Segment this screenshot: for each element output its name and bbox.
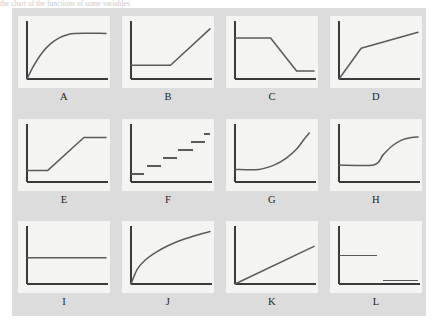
panel-label-a: A (60, 91, 68, 103)
panel-label-l: L (373, 296, 380, 308)
plot-area-c (226, 16, 318, 88)
panel-grid: ABCDEFGHIJKL (12, 8, 426, 316)
plot-area-l (330, 221, 422, 293)
panel-l: L (324, 213, 428, 316)
panel-label-c: C (268, 91, 275, 103)
panel-i: I (12, 213, 116, 316)
data-curve (235, 247, 314, 285)
plot-area-j (122, 221, 214, 293)
data-curve (131, 29, 210, 65)
panel-h: H (324, 111, 428, 214)
panel-label-e: E (61, 194, 68, 206)
panel-e: E (12, 111, 116, 214)
caption-text: the chart of the functions of some varia… (0, 0, 434, 7)
plot-area-e (18, 119, 110, 191)
figure-container: ABCDEFGHIJKL (12, 8, 426, 316)
plot-area-f (122, 119, 214, 191)
panel-c: C (220, 8, 324, 111)
panel-label-i: I (62, 296, 66, 308)
plot-area-g (226, 119, 318, 191)
panel-g: G (220, 111, 324, 214)
data-curve (235, 133, 309, 170)
panel-d: D (324, 8, 428, 111)
data-curve (27, 137, 106, 170)
panel-label-h: H (372, 194, 380, 206)
data-curve (339, 32, 418, 79)
figure-page: the chart of the functions of some varia… (0, 0, 434, 330)
data-curve (235, 38, 314, 71)
panel-a: A (12, 8, 116, 111)
panel-label-g: G (268, 194, 276, 206)
plot-area-a (18, 16, 110, 88)
panel-b: B (116, 8, 220, 111)
plot-area-i (18, 221, 110, 293)
data-curve (339, 137, 418, 166)
panel-label-d: D (372, 91, 380, 103)
panel-k: K (220, 213, 324, 316)
panel-label-j: J (166, 296, 170, 308)
plot-area-h (330, 119, 422, 191)
data-curve (27, 33, 106, 79)
plot-area-k (226, 221, 318, 293)
data-curve (131, 232, 210, 284)
panel-label-b: B (164, 91, 171, 103)
panel-label-f: F (165, 194, 171, 206)
panel-label-k: K (268, 296, 276, 308)
panel-f: F (116, 111, 220, 214)
plot-area-d (330, 16, 422, 88)
panel-j: J (116, 213, 220, 316)
plot-area-b (122, 16, 214, 88)
